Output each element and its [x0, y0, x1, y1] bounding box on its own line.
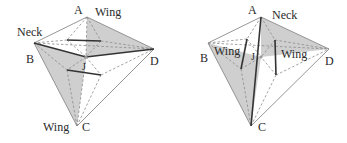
thick-upper-segment [67, 40, 101, 41]
vertex-j [84, 55, 87, 58]
tetrahedron-diagrams: A Wing Neck B J D Wing C [0, 0, 347, 143]
dashed-a-left [67, 17, 87, 40]
label-c: C [258, 120, 266, 134]
label-tag-b: Neck [17, 25, 42, 39]
label-j: J [251, 51, 255, 62]
label-a: A [74, 3, 83, 17]
label-tag-c: Wing [43, 120, 69, 134]
left-tetrahedron: A Wing Neck B J D Wing C [17, 3, 159, 134]
thick-right-segment [275, 40, 276, 75]
label-d: D [150, 54, 159, 68]
dashed-rw-j2 [261, 57, 276, 75]
label-tag-a: Wing [95, 5, 121, 19]
dashed-lw-b [208, 39, 247, 43]
label-tag-right: Wing [281, 47, 307, 61]
right-tetrahedron: A Neck B Wing J Wing D C [200, 3, 334, 134]
label-tag-a: Neck [272, 8, 297, 22]
label-b: B [26, 52, 34, 66]
label-b: B [200, 51, 208, 65]
label-a: A [248, 3, 257, 17]
label-c: C [82, 120, 90, 134]
edge-cd [77, 49, 154, 126]
label-d: D [325, 54, 334, 68]
label-tag-left: Wing [214, 44, 240, 58]
label-j: J [82, 61, 86, 72]
vertex-j [259, 55, 262, 58]
dashed-j-low [86, 57, 101, 75]
